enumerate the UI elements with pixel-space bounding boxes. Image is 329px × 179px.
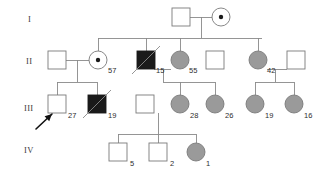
- female-symbol: [171, 95, 189, 113]
- age-label-iii-6: 19: [265, 111, 273, 120]
- male-symbol: [48, 51, 66, 69]
- pedigree-individual-iv-2[interactable]: [149, 143, 167, 161]
- generation-label-ii: II: [26, 56, 32, 66]
- pedigree-individual-iii-7[interactable]: [285, 95, 303, 113]
- pedigree-individual-iv-3[interactable]: [187, 143, 205, 161]
- pedigree-individual-iv-1[interactable]: [109, 143, 127, 161]
- male-symbol: [109, 143, 127, 161]
- pedigree-individual-iii-4[interactable]: [171, 95, 189, 113]
- proband-arrow: [36, 114, 52, 129]
- age-label-iii-2: 19: [108, 111, 116, 120]
- female-symbol: [206, 95, 224, 113]
- carrier-dot-icon: [96, 58, 100, 62]
- male-symbol: [48, 95, 66, 113]
- pedigree-individual-iii-6[interactable]: [246, 95, 264, 113]
- male-symbol: [206, 51, 224, 69]
- female-symbol: [246, 95, 264, 113]
- male-symbol: [149, 143, 167, 161]
- age-label-ii-4: 55: [189, 66, 197, 75]
- individuals-layer: [48, 8, 305, 161]
- age-label-iv-2: 2: [170, 159, 174, 168]
- pedigree-canvas: [0, 0, 329, 179]
- generation-label-iii: III: [24, 103, 33, 113]
- age-label-iii-4: 28: [190, 111, 198, 120]
- age-label-iii-7: 16: [304, 111, 312, 120]
- pedigree-individual-iii-1[interactable]: [48, 95, 66, 113]
- pedigree-individual-iii-3[interactable]: [136, 95, 154, 113]
- female-symbol: [249, 51, 267, 69]
- age-label-iv-1: 5: [130, 159, 134, 168]
- pedigree-individual-ii-1[interactable]: [48, 51, 66, 69]
- pedigree-individual-ii-5[interactable]: [206, 51, 224, 69]
- pedigree-diagram: IIIIIIIV 57155542271928261916521: [0, 0, 329, 179]
- age-label-iii-1: 27: [68, 111, 76, 120]
- male-symbol: [136, 95, 154, 113]
- age-label-iv-3: 1: [206, 159, 210, 168]
- age-label-ii-3: 15: [156, 66, 164, 75]
- female-symbol: [187, 143, 205, 161]
- age-label-iii-5: 26: [225, 111, 233, 120]
- pedigree-individual-ii-7[interactable]: [287, 51, 305, 69]
- female-symbol: [171, 51, 189, 69]
- age-label-ii-2: 57: [108, 66, 116, 75]
- connection-lines: [57, 17, 294, 143]
- carrier-dot-icon: [219, 15, 223, 19]
- pedigree-individual-i-2[interactable]: [212, 8, 230, 26]
- female-symbol: [285, 95, 303, 113]
- pedigree-individual-i-1[interactable]: [172, 8, 190, 26]
- pedigree-individual-ii-4[interactable]: [171, 51, 189, 69]
- generation-label-iv: IV: [24, 145, 34, 155]
- pedigree-individual-ii-2[interactable]: [89, 51, 107, 69]
- male-symbol: [172, 8, 190, 26]
- age-label-ii-6: 42: [267, 66, 275, 75]
- male-symbol: [287, 51, 305, 69]
- pedigree-individual-iii-5[interactable]: [206, 95, 224, 113]
- pedigree-individual-ii-6[interactable]: [249, 51, 267, 69]
- generation-label-i: I: [28, 14, 31, 24]
